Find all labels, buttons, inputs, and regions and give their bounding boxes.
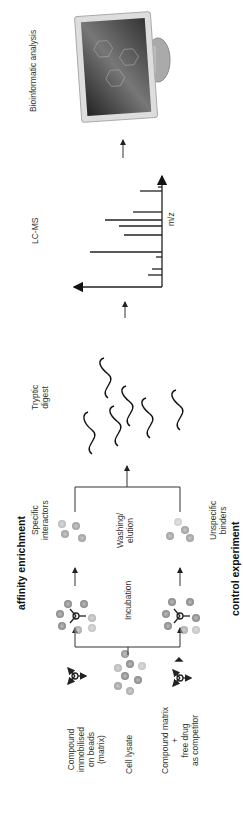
incubation-label: Incubation bbox=[123, 581, 133, 620]
affinity-complex-icon bbox=[56, 600, 96, 634]
cell-lysate-proteins-icon bbox=[114, 650, 146, 695]
compound-matrix-label: Compound immobilised on beads (matrix) bbox=[66, 727, 106, 772]
specific-interactors-label: Specific interactors bbox=[30, 500, 50, 540]
unspecific-binders-icon bbox=[166, 518, 194, 542]
lcms-label: LC-MS bbox=[30, 218, 40, 244]
specific-interactors-icon bbox=[58, 520, 86, 542]
branch-connector-2 bbox=[75, 466, 180, 512]
mz-axis-label: m/z bbox=[166, 212, 176, 226]
bioinformatic-analysis-label: Bioinformatic analysis bbox=[28, 30, 38, 112]
control-experiment-title: control experiment bbox=[230, 521, 240, 616]
affinity-proteomics-workflow-diagram: Compound immobilised on beads (matrix) C… bbox=[0, 0, 243, 826]
affinity-enrichment-title: affinity enrichment bbox=[16, 516, 26, 610]
competition-compound-icon bbox=[173, 658, 191, 686]
computer-monitor-icon bbox=[74, 11, 170, 122]
tryptic-peptides-icon bbox=[84, 358, 183, 454]
unspecific-binders-label: Unspecific binders bbox=[208, 501, 228, 540]
mass-spectrum-chart bbox=[74, 176, 162, 287]
cell-lysate-label: Cell lysate bbox=[124, 735, 134, 774]
branch-connector-1 bbox=[75, 628, 180, 655]
tryptic-digest-label: Tryptic digest bbox=[30, 385, 50, 410]
compound-matrix-icon bbox=[68, 668, 86, 684]
competition-label: Compound matrix + free drug as competito… bbox=[160, 707, 200, 774]
washing-elution-label: Washing/ elution bbox=[115, 513, 135, 548]
diagram-graphics bbox=[0, 0, 243, 826]
control-complex-icon bbox=[162, 598, 200, 634]
